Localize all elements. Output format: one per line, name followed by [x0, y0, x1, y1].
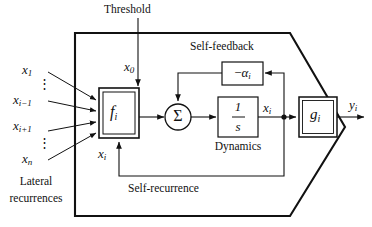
input-arrow-xi-minus-1 [48, 101, 96, 111]
self-feedback-label: Self-feedback [190, 41, 254, 53]
feedback-gain-label: −αi [222, 66, 263, 81]
threshold-signal-label: x0 [124, 60, 134, 75]
integrator-denominator: s [218, 120, 258, 133]
lateral-recurrences-label-line2: recurrences [0, 193, 72, 205]
state-signal-label: xi [263, 101, 271, 116]
input-vdots-upper: ⋮ [38, 79, 51, 89]
input-vdots-lower: ⋮ [38, 138, 51, 148]
wire-gain-to-sum [178, 73, 222, 101]
self-recurrence-label: Self-recurrence [128, 183, 199, 195]
input-label-xi-minus-1: xi−1 [13, 93, 32, 108]
integrator-numerator: 1 [218, 100, 258, 113]
neuron-block-diagram: Threshold x0 x1 ⋮ xi−1 xi+1 ⋮ xn Lateral… [0, 0, 372, 227]
activation-block-label: fi [110, 104, 117, 122]
input-arrow-xi-plus-1 [48, 122, 96, 131]
input-label-xi-plus-1: xi+1 [13, 119, 32, 134]
threshold-label: Threshold [104, 4, 151, 16]
output-block-label: gi [310, 107, 320, 124]
recurrent-input-label: xi [98, 147, 106, 162]
output-signal-label: yi [349, 98, 357, 113]
input-arrow-x1 [48, 72, 96, 100]
dynamics-label: Dynamics [203, 141, 273, 153]
summation-label: Σ [164, 108, 192, 124]
lateral-recurrences-label-line1: Lateral [0, 176, 72, 188]
activation-block-inner [103, 92, 135, 134]
input-label-xn: xn [22, 152, 32, 167]
input-label-x1: x1 [22, 63, 32, 78]
input-arrow-xn [48, 133, 96, 160]
